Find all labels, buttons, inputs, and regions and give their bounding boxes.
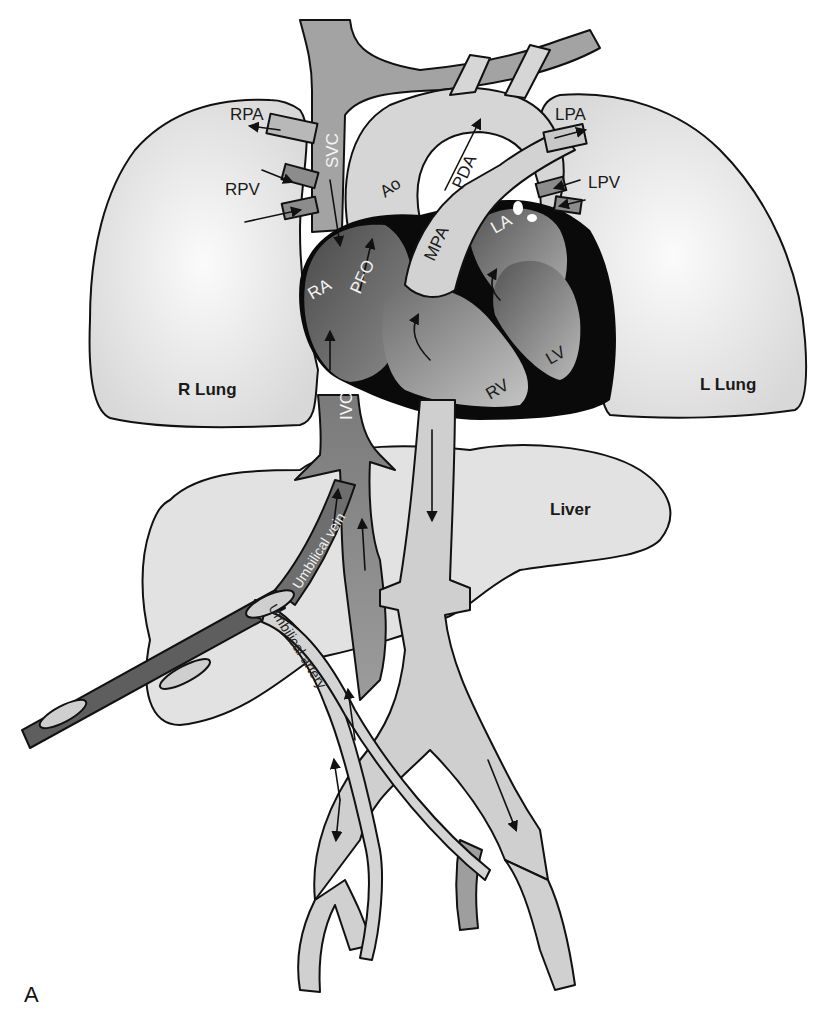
fetal-circulation-diagram: RPA RPV SVC Ao PDA MPA LPA LPV LA RA PFO… <box>0 0 822 1020</box>
label-right-lung: R Lung <box>178 380 237 399</box>
pulmonary-vein-ostium-2 <box>527 214 537 222</box>
label-svc: SVC <box>323 133 342 168</box>
left-iliac-branch <box>298 880 372 992</box>
right-lung <box>90 100 318 427</box>
label-left-lung: L Lung <box>700 375 756 394</box>
label-liver: Liver <box>550 500 591 519</box>
right-iliac-branch <box>505 860 575 990</box>
label-lpa: LPA <box>555 105 587 124</box>
label-lpv: LPV <box>588 173 621 192</box>
panel-letter: A <box>24 982 39 1008</box>
lpv-vessel-2 <box>554 196 582 213</box>
label-rpa: RPA <box>230 105 264 124</box>
label-rpv: RPV <box>225 180 261 199</box>
pulmonary-vein-ostium-1 <box>513 201 523 215</box>
label-ivc: IVC <box>337 392 356 420</box>
